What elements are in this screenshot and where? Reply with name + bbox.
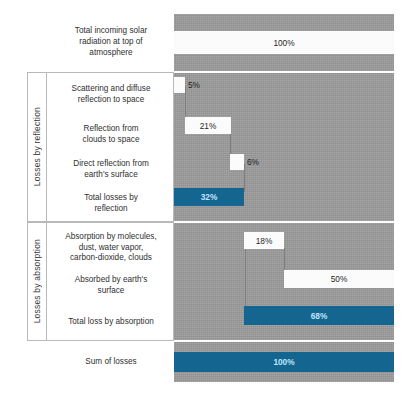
- bar-absorbed-surface: 50%: [284, 270, 394, 288]
- bar-value-sum-of-losses: 100%: [273, 357, 294, 367]
- bar-value-total-absorption: 68%: [311, 311, 328, 321]
- row-label-incoming: Total incoming solarradiation at top ofa…: [48, 14, 174, 71]
- connector-absorb-mol-total: [245, 248, 246, 314]
- group-label-reflection: Losses by reflection: [27, 72, 47, 222]
- bar-total-absorption: 68%: [244, 306, 394, 325]
- bar-direct: [230, 154, 244, 170]
- group-label-absorption-text: Losses by absorption: [32, 239, 42, 323]
- row-label-sum: Sum of losses: [48, 342, 174, 382]
- bar-sum-of-losses: 100%: [174, 352, 394, 372]
- row-label-absorb-mol: Absorption by molecules,dust, water vapo…: [48, 226, 174, 270]
- row-label-scattering: Scattering and diffusereflection to spac…: [48, 76, 174, 114]
- bar-value-total-reflection: 32%: [201, 192, 218, 202]
- bar-value-incoming: 100%: [273, 38, 294, 48]
- connector-direct-total: [244, 164, 245, 192]
- group-label-absorption: Losses by absorption: [27, 222, 47, 341]
- bar-absorb-molecules: 18%: [244, 232, 284, 249]
- row-label-absorb-surface: Absorbed by earth'ssurface: [48, 268, 174, 304]
- bar-value-scattering: 5%: [188, 80, 200, 90]
- group-label-reflection-text: Losses by reflection: [32, 107, 42, 186]
- row-label-direct: Direct reflection fromearth's surface: [48, 152, 174, 188]
- waterfall-chart: Losses by reflection Losses by absorptio…: [0, 0, 418, 409]
- bar-value-absorb-molecules: 18%: [256, 236, 273, 246]
- bar-incoming: 100%: [174, 31, 394, 54]
- connector-scattering-clouds: [185, 86, 186, 118]
- bar-scattering: [174, 77, 185, 93]
- row-label-total-absorb: Total loss by absorption: [48, 303, 174, 341]
- row-label-clouds: Reflection fromclouds to space: [48, 116, 174, 154]
- bar-clouds: 21%: [185, 117, 231, 134]
- bar-value-absorbed-surface: 50%: [331, 274, 348, 284]
- bar-value-clouds: 21%: [200, 121, 217, 131]
- bar-total-reflection: 32%: [174, 188, 244, 206]
- bar-value-direct: 6%: [247, 157, 259, 167]
- row-label-total-reflect: Total losses byreflection: [48, 186, 174, 222]
